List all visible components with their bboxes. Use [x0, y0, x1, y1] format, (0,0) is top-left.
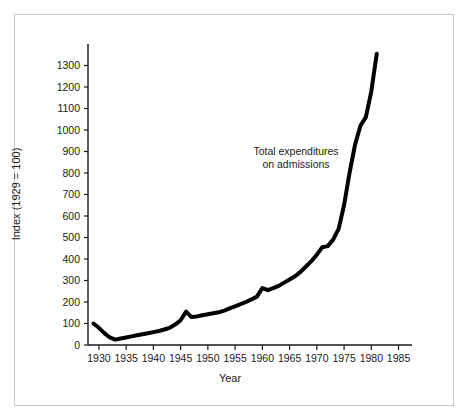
x-tick-label: 1985: [387, 352, 411, 364]
y-tick-label: 100: [62, 317, 80, 329]
x-tick-label: 1975: [332, 352, 356, 364]
chart-page: 0100200300400500600700800900100011001200…: [0, 0, 469, 418]
y-tick-label: 1300: [57, 59, 81, 71]
x-tick-label: 1960: [251, 352, 275, 364]
x-tick-label: 1980: [360, 352, 384, 364]
y-tick-label: 1200: [57, 81, 81, 93]
annotation-line-2: on admissions: [232, 158, 360, 171]
y-tick-label: 400: [62, 253, 80, 265]
y-tick-label: 0: [74, 339, 80, 351]
x-tick-label: 1930: [87, 352, 111, 364]
annotation-line-1: Total expenditures: [232, 145, 360, 158]
x-tick-label: 1950: [196, 352, 220, 364]
data-line-total-expenditures: [93, 54, 376, 340]
x-tick-label: 1970: [305, 352, 329, 364]
y-tick-label: 700: [62, 188, 80, 200]
x-tick-label: 1945: [169, 352, 193, 364]
tick-labels-group: 0100200300400500600700800900100011001200…: [57, 59, 411, 364]
y-tick-label: 500: [62, 231, 80, 243]
y-tick-label: 300: [62, 274, 80, 286]
series-annotation: Total expenditures on admissions: [232, 145, 360, 171]
y-tick-label: 900: [62, 145, 80, 157]
axes-group: [84, 44, 412, 350]
x-tick-label: 1935: [114, 352, 138, 364]
x-tick-label: 1965: [278, 352, 302, 364]
x-axis-label: Year: [180, 372, 280, 384]
x-tick-label: 1940: [142, 352, 166, 364]
y-tick-label: 1000: [57, 124, 81, 136]
x-tick-label: 1955: [223, 352, 247, 364]
y-tick-label: 800: [62, 167, 80, 179]
line-chart-svg: 0100200300400500600700800900100011001200…: [0, 0, 469, 418]
y-tick-label: 600: [62, 210, 80, 222]
y-tick-label: 1100: [57, 102, 80, 114]
y-tick-label: 200: [62, 296, 80, 308]
y-axis-label: Index (1929 = 100): [10, 134, 22, 254]
data-series-group: [93, 54, 376, 340]
